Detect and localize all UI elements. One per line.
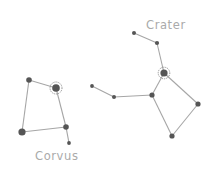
constellation-diagram: Corvus Crater	[0, 0, 221, 180]
corvus-star-icon	[26, 77, 32, 83]
crater-line	[134, 33, 157, 43]
crater-star-icon	[169, 133, 174, 138]
crater-star-icon	[195, 101, 200, 106]
corvus-star-icon	[52, 84, 60, 92]
crater-line	[172, 104, 198, 136]
crater-line	[92, 86, 114, 97]
corvus-star-icon	[18, 128, 25, 135]
crater-star-icon	[90, 84, 94, 88]
constellation-stars	[18, 31, 200, 145]
constellation-lines	[22, 33, 198, 143]
crater-line	[114, 95, 152, 97]
crater-line	[164, 73, 198, 104]
crater-star-icon	[149, 92, 154, 97]
corvus-line	[22, 80, 29, 132]
crater-star-icon	[160, 69, 167, 76]
corvus-line	[56, 88, 66, 127]
constellation-label-corvus: Corvus	[35, 149, 78, 163]
crater-star-icon	[155, 41, 159, 45]
corvus-line	[22, 127, 66, 132]
crater-line	[152, 73, 164, 95]
crater-star-icon	[132, 31, 136, 35]
corvus-star-icon	[67, 141, 71, 145]
constellation-label-crater: Crater	[146, 18, 186, 32]
crater-line	[152, 95, 172, 136]
corvus-star-icon	[63, 124, 69, 130]
crater-star-icon	[112, 95, 116, 99]
